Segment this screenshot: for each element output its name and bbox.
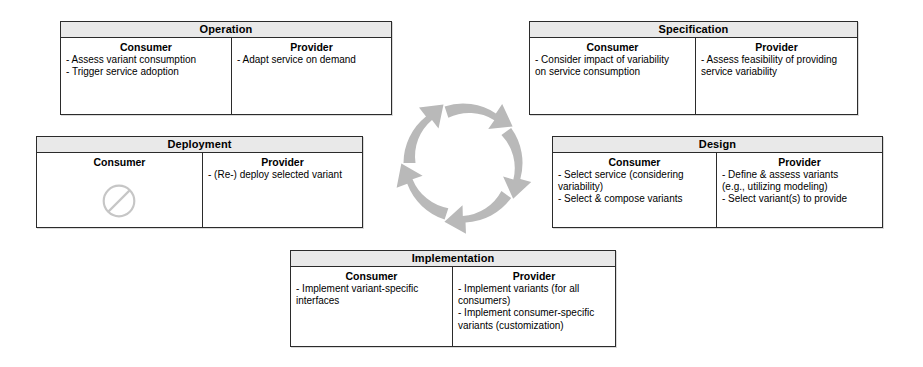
no-entry-icon	[101, 183, 137, 219]
implementation-consumer-column: Consumer - Implement variant-specific in…	[291, 267, 453, 346]
specification-provider-column: Provider - Assess feasibility of providi…	[696, 38, 857, 114]
implementation-provider-header: Provider	[458, 270, 610, 282]
phase-box-specification: Specification Consumer - Consider impact…	[529, 21, 858, 115]
operation-provider-header: Provider	[237, 41, 386, 53]
cycle-arrow-3	[479, 128, 540, 199]
phase-title-implementation: Implementation	[291, 251, 615, 267]
cycle-arrow-1	[404, 105, 444, 164]
design-provider-list: - Define & assess variants (e.g., utiliz…	[722, 169, 877, 206]
list-item: - Define & assess variants (e.g., utiliz…	[722, 169, 877, 193]
list-item: - Select & compose variants	[558, 193, 711, 205]
operation-consumer-column: Consumer - Assess variant consumption - …	[61, 38, 232, 114]
implementation-consumer-list: - Implement variant-specific interfaces	[296, 283, 447, 307]
list-item: - Trigger service adoption	[66, 66, 226, 78]
deployment-provider-header: Provider	[208, 156, 357, 168]
diagram-canvas: Operation Consumer - Assess variant cons…	[0, 0, 923, 367]
list-item: - Implement variants (for all consumers)	[458, 283, 610, 307]
specification-consumer-header: Consumer	[535, 41, 690, 53]
design-consumer-header: Consumer	[558, 156, 711, 168]
phase-box-design: Design Consumer - Select service (consid…	[552, 136, 883, 228]
implementation-provider-column: Provider - Implement variants (for all c…	[453, 267, 615, 346]
design-provider-header: Provider	[722, 156, 877, 168]
list-item: - (Re-) deploy selected variant	[208, 169, 357, 181]
phase-box-deployment: Deployment Consumer Provider - (Re-) dep…	[36, 136, 363, 228]
operation-consumer-list: - Assess variant consumption - Trigger s…	[66, 54, 226, 78]
implementation-consumer-header: Consumer	[296, 270, 447, 282]
phase-title-deployment: Deployment	[37, 137, 362, 153]
specification-provider-header: Provider	[701, 41, 852, 53]
phase-body-design: Consumer - Select service (considering v…	[553, 153, 882, 227]
specification-provider-list: - Assess feasibility of providing servic…	[701, 54, 852, 78]
phase-box-implementation: Implementation Consumer - Implement vari…	[290, 250, 616, 347]
specification-consumer-list: - Consider impact of variability on serv…	[535, 54, 690, 78]
deployment-provider-column: Provider - (Re-) deploy selected variant	[203, 153, 362, 227]
list-item: - Implement consumer-specific variants (…	[458, 307, 610, 331]
cycle-arrow-4	[444, 174, 511, 240]
deployment-provider-list: - (Re-) deploy selected variant	[208, 169, 357, 181]
deployment-consumer-column: Consumer	[37, 153, 203, 227]
phase-title-specification: Specification	[530, 22, 857, 38]
implementation-provider-list: - Implement variants (for all consumers)…	[458, 283, 610, 332]
phase-body-specification: Consumer - Consider impact of variabilit…	[530, 38, 857, 114]
deployment-consumer-header: Consumer	[42, 156, 197, 168]
phase-body-implementation: Consumer - Implement variant-specific in…	[291, 267, 615, 346]
phase-title-design: Design	[553, 137, 882, 153]
cycle-arrow-5	[389, 163, 457, 219]
phase-body-deployment: Consumer Provider - (Re-) deploy selecte…	[37, 153, 362, 227]
list-item: - Adapt service on demand	[237, 54, 386, 66]
specification-consumer-column: Consumer - Consider impact of variabilit…	[530, 38, 696, 114]
operation-provider-column: Provider - Adapt service on demand	[232, 38, 391, 114]
operation-consumer-header: Consumer	[66, 41, 226, 53]
list-item: - Implement variant-specific interfaces	[296, 283, 447, 307]
phase-box-operation: Operation Consumer - Assess variant cons…	[60, 21, 392, 115]
phase-body-operation: Consumer - Assess variant consumption - …	[61, 38, 391, 114]
design-provider-column: Provider - Define & assess variants (e.g…	[717, 153, 882, 227]
list-item: - Consider impact of variability on serv…	[535, 54, 690, 78]
design-consumer-list: - Select service (considering variabilit…	[558, 169, 711, 206]
phase-title-operation: Operation	[61, 22, 391, 38]
list-item: - Select service (considering variabilit…	[558, 169, 711, 193]
list-item: - Assess variant consumption	[66, 54, 226, 66]
list-item: - Assess feasibility of providing servic…	[701, 54, 852, 78]
operation-provider-list: - Adapt service on demand	[237, 54, 386, 66]
list-item: - Select variant(s) to provide	[722, 193, 877, 205]
design-consumer-column: Consumer - Select service (considering v…	[553, 153, 717, 227]
lifecycle-cycle-icon	[386, 86, 540, 240]
